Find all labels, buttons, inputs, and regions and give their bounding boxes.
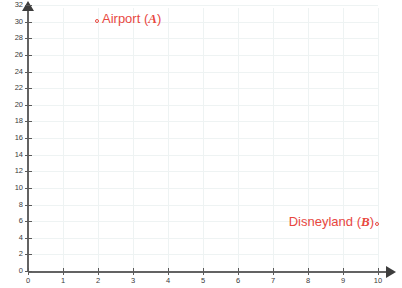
y-tick-mark bbox=[25, 5, 32, 6]
y-tick-label: 8 bbox=[2, 200, 23, 210]
x-tick-mark bbox=[168, 268, 169, 275]
gridline-horizontal bbox=[28, 5, 378, 6]
y-tick-mark bbox=[25, 238, 32, 239]
gridline-vertical bbox=[168, 8, 169, 272]
y-tick-mark bbox=[25, 138, 32, 139]
x-tick-label: 7 bbox=[262, 276, 284, 286]
x-tick-label: 1 bbox=[52, 276, 74, 286]
y-tick-mark bbox=[25, 171, 32, 172]
gridline-vertical bbox=[133, 8, 134, 272]
y-tick-mark bbox=[25, 254, 32, 255]
gridline-vertical bbox=[63, 8, 64, 272]
x-tick-mark bbox=[98, 268, 99, 275]
y-tick-mark bbox=[25, 188, 32, 189]
x-tick-label: 5 bbox=[192, 276, 214, 286]
x-tick-mark bbox=[273, 268, 274, 275]
gridline-horizontal bbox=[28, 121, 378, 122]
gridline-vertical bbox=[343, 8, 344, 272]
y-tick-mark bbox=[25, 121, 32, 122]
gridline-vertical bbox=[203, 8, 204, 272]
y-tick-label: 4 bbox=[2, 233, 23, 243]
x-tick-label: 3 bbox=[122, 276, 144, 286]
x-tick-mark bbox=[63, 268, 64, 275]
gridline-vertical bbox=[98, 8, 99, 272]
gridline-horizontal bbox=[28, 38, 378, 39]
x-tick-label: 4 bbox=[157, 276, 179, 286]
x-tick-label: 0 bbox=[17, 276, 39, 286]
gridline-horizontal bbox=[28, 205, 378, 206]
point-label-airport: Airport (A) bbox=[102, 11, 161, 26]
gridline-horizontal bbox=[28, 188, 378, 189]
point-label-text: Airport ( bbox=[102, 11, 148, 26]
gridline-horizontal bbox=[28, 138, 378, 139]
y-tick-label: 12 bbox=[2, 166, 23, 176]
y-axis-arrow-icon bbox=[22, 1, 34, 11]
y-tick-label: 26 bbox=[2, 50, 23, 60]
y-tick-mark bbox=[25, 38, 32, 39]
gridline-horizontal bbox=[28, 55, 378, 56]
y-tick-mark bbox=[25, 55, 32, 56]
point-label-close: ) bbox=[370, 214, 374, 229]
y-tick-label: 20 bbox=[2, 100, 23, 110]
y-tick-label: 24 bbox=[2, 67, 23, 77]
point-label-close: ) bbox=[157, 11, 161, 26]
x-tick-mark bbox=[343, 268, 344, 275]
x-tick-mark bbox=[133, 268, 134, 275]
gridline-vertical bbox=[273, 8, 274, 272]
plot-area bbox=[28, 8, 378, 272]
point-label-text: Disneyland ( bbox=[289, 214, 361, 229]
gridline-horizontal bbox=[28, 105, 378, 106]
y-tick-label: 14 bbox=[2, 150, 23, 160]
point-marker-airport bbox=[95, 19, 99, 23]
gridline-horizontal bbox=[28, 155, 378, 156]
x-tick-label: 9 bbox=[332, 276, 354, 286]
y-tick-label: 16 bbox=[2, 133, 23, 143]
gridline-vertical bbox=[378, 8, 379, 272]
y-tick-label: 32 bbox=[2, 0, 23, 10]
y-tick-label: 10 bbox=[2, 183, 23, 193]
y-tick-label: 0 bbox=[2, 266, 23, 276]
y-tick-mark bbox=[25, 155, 32, 156]
gridline-horizontal bbox=[28, 171, 378, 172]
y-tick-label: 18 bbox=[2, 116, 23, 126]
y-tick-label: 30 bbox=[2, 17, 23, 27]
y-tick-label: 2 bbox=[2, 249, 23, 259]
x-tick-mark bbox=[378, 268, 379, 275]
coordinate-plane-figure: 012345678910 024681012141618202224262830… bbox=[0, 0, 402, 288]
gridline-horizontal bbox=[28, 72, 378, 73]
y-axis-line bbox=[27, 10, 29, 272]
y-tick-mark bbox=[25, 221, 32, 222]
y-tick-mark bbox=[25, 22, 32, 23]
gridline-horizontal bbox=[28, 22, 378, 23]
x-tick-label: 10 bbox=[367, 276, 389, 286]
y-tick-mark bbox=[25, 205, 32, 206]
gridline-horizontal bbox=[28, 238, 378, 239]
point-label-disneyland: Disneyland (B) bbox=[289, 214, 374, 229]
gridline-horizontal bbox=[28, 88, 378, 89]
gridline-vertical bbox=[308, 8, 309, 272]
y-tick-mark bbox=[25, 88, 32, 89]
gridline-vertical bbox=[238, 8, 239, 272]
y-tick-label: 22 bbox=[2, 83, 23, 93]
x-tick-label: 2 bbox=[87, 276, 109, 286]
y-tick-mark bbox=[25, 271, 32, 272]
x-tick-label: 8 bbox=[297, 276, 319, 286]
x-axis-line bbox=[28, 271, 389, 273]
x-tick-mark bbox=[308, 268, 309, 275]
y-tick-mark bbox=[25, 72, 32, 73]
y-tick-label: 6 bbox=[2, 216, 23, 226]
x-tick-label: 6 bbox=[227, 276, 249, 286]
point-label-symbol: B bbox=[361, 214, 370, 229]
gridline-horizontal bbox=[28, 254, 378, 255]
y-tick-mark bbox=[25, 105, 32, 106]
x-tick-mark bbox=[238, 268, 239, 275]
point-label-symbol: A bbox=[148, 11, 157, 26]
x-tick-mark bbox=[203, 268, 204, 275]
y-tick-label: 28 bbox=[2, 33, 23, 43]
